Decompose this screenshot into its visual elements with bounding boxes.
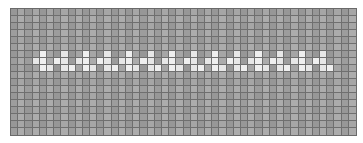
grid-cell [212, 23, 219, 30]
grid-cell [169, 30, 176, 37]
grid-cell [90, 128, 97, 135]
grid-cell [327, 107, 334, 114]
grid-cell [97, 51, 104, 58]
grid-cell [212, 58, 219, 65]
grid-cell [90, 114, 97, 121]
grid-cell [119, 37, 126, 44]
grid-cell [248, 107, 255, 114]
grid-cell [33, 37, 40, 44]
grid-cell [219, 114, 226, 121]
grid-cell [155, 93, 162, 100]
grid-cell [234, 37, 241, 44]
grid-cell [334, 51, 341, 58]
grid-cell [270, 72, 277, 79]
grid-cell [76, 93, 83, 100]
grid-cell [61, 58, 68, 65]
grid-cell [241, 37, 248, 44]
grid-cell [320, 30, 327, 37]
grid-cell [104, 16, 111, 23]
grid-cell [255, 16, 262, 23]
grid-cell [112, 93, 119, 100]
grid-cell [18, 16, 25, 23]
grid-cell [69, 121, 76, 128]
grid-cell [126, 93, 133, 100]
grid-cell [76, 30, 83, 37]
grid-cell [234, 72, 241, 79]
grid-cell [198, 44, 205, 51]
grid-cell [61, 79, 68, 86]
grid-cell [140, 100, 147, 107]
grid-cell [327, 58, 334, 65]
grid-cell [263, 30, 270, 37]
grid-cell [277, 16, 284, 23]
grid-cell [126, 9, 133, 16]
grid-cell [248, 30, 255, 37]
grid-cell [334, 93, 341, 100]
grid-cell [40, 44, 47, 51]
grid-cell [320, 79, 327, 86]
grid-cell [241, 30, 248, 37]
grid-cell [162, 93, 169, 100]
grid-cell [119, 86, 126, 93]
grid-cell [126, 72, 133, 79]
grid-cell [119, 107, 126, 114]
grid-cell [40, 114, 47, 121]
grid-cell [299, 100, 306, 107]
grid-cell [234, 128, 241, 135]
grid-cell [219, 107, 226, 114]
grid-cell [241, 9, 248, 16]
grid-cell [69, 30, 76, 37]
grid-cell [11, 58, 18, 65]
grid-cell [69, 23, 76, 30]
grid-cell [219, 9, 226, 16]
grid-cell [90, 58, 97, 65]
grid-cell [54, 30, 61, 37]
grid-cell [169, 16, 176, 23]
grid-cell [284, 16, 291, 23]
grid-cell [255, 86, 262, 93]
grid-cell [306, 121, 313, 128]
grid-cell [61, 100, 68, 107]
grid-cell [40, 86, 47, 93]
grid-cell [33, 100, 40, 107]
grid-cell [155, 9, 162, 16]
grid-cell [184, 100, 191, 107]
grid-cell [90, 44, 97, 51]
grid-cell [104, 30, 111, 37]
grid-cell [176, 79, 183, 86]
grid-cell [47, 65, 54, 72]
grid-cell [140, 58, 147, 65]
grid-cell [76, 72, 83, 79]
grid-cell [25, 79, 32, 86]
grid-cell [11, 30, 18, 37]
grid-cell [342, 65, 349, 72]
grid-cell [255, 58, 262, 65]
grid-cell [104, 79, 111, 86]
grid-cell [270, 121, 277, 128]
grid-cell [205, 86, 212, 93]
grid-cell [191, 44, 198, 51]
grid-cell [241, 121, 248, 128]
grid-cell [184, 44, 191, 51]
grid-cell [162, 72, 169, 79]
grid-cell [61, 65, 68, 72]
grid-cell [25, 65, 32, 72]
grid-cell [299, 58, 306, 65]
grid-cell [155, 128, 162, 135]
grid-cell [61, 107, 68, 114]
grid-cell [299, 128, 306, 135]
grid-cell [54, 51, 61, 58]
grid-cell [342, 30, 349, 37]
grid-cell [320, 107, 327, 114]
grid-cell [169, 114, 176, 121]
grid-cell [61, 16, 68, 23]
grid-cell [54, 16, 61, 23]
grid-cell [291, 100, 298, 107]
grid-cell [219, 93, 226, 100]
grid-cell [104, 114, 111, 121]
grid-cell [83, 37, 90, 44]
grid-cell [320, 58, 327, 65]
grid-cell [112, 58, 119, 65]
grid-cell [90, 30, 97, 37]
grid-cell [126, 51, 133, 58]
